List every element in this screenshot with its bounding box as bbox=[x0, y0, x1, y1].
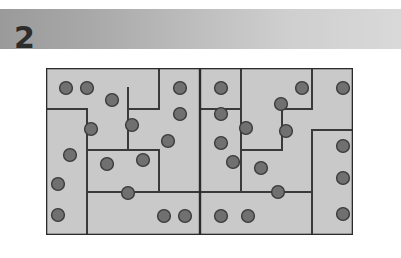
puzzle-dot[interactable] bbox=[162, 135, 175, 148]
puzzle-dot[interactable] bbox=[158, 210, 171, 223]
puzzle-dot[interactable] bbox=[255, 162, 268, 175]
puzzle-dot[interactable] bbox=[52, 178, 65, 191]
puzzle-dot[interactable] bbox=[242, 210, 255, 223]
puzzle-board[interactable] bbox=[46, 68, 353, 235]
puzzle-dot[interactable] bbox=[81, 82, 94, 95]
puzzle-dot[interactable] bbox=[337, 140, 350, 153]
puzzle-dot[interactable] bbox=[337, 82, 350, 95]
puzzle-dot[interactable] bbox=[215, 108, 228, 121]
puzzle-dot[interactable] bbox=[126, 119, 139, 132]
puzzle-dot[interactable] bbox=[337, 172, 350, 185]
puzzle-grid-svg[interactable] bbox=[46, 68, 353, 235]
puzzle-dot[interactable] bbox=[296, 82, 309, 95]
puzzle-dot[interactable] bbox=[215, 137, 228, 150]
puzzle-dot[interactable] bbox=[60, 82, 73, 95]
puzzle-dot[interactable] bbox=[174, 108, 187, 121]
puzzle-dot[interactable] bbox=[215, 210, 228, 223]
puzzle-page: 2 bbox=[0, 0, 401, 258]
puzzle-dot[interactable] bbox=[52, 209, 65, 222]
puzzle-dot[interactable] bbox=[179, 210, 192, 223]
puzzle-dot[interactable] bbox=[137, 154, 150, 167]
puzzle-dot[interactable] bbox=[240, 122, 253, 135]
puzzle-dot[interactable] bbox=[122, 187, 135, 200]
puzzle-number-label: 2 bbox=[14, 21, 35, 55]
puzzle-dot[interactable] bbox=[106, 94, 119, 107]
puzzle-dot[interactable] bbox=[337, 208, 350, 221]
puzzle-dot[interactable] bbox=[85, 123, 98, 136]
puzzle-dot[interactable] bbox=[227, 156, 240, 169]
puzzle-dot[interactable] bbox=[280, 125, 293, 138]
puzzle-dot[interactable] bbox=[272, 186, 285, 199]
puzzle-dot[interactable] bbox=[64, 149, 77, 162]
header-band: 2 bbox=[0, 9, 401, 49]
puzzle-dot[interactable] bbox=[174, 82, 187, 95]
puzzle-dot[interactable] bbox=[275, 98, 288, 111]
puzzle-dot[interactable] bbox=[101, 158, 114, 171]
puzzle-dot[interactable] bbox=[215, 82, 228, 95]
